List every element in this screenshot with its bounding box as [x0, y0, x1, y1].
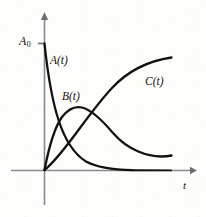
plot-canvas	[0, 0, 206, 217]
kinetics-figure: A0 A(t) B(t) C(t) t	[0, 0, 206, 217]
curve-b	[45, 107, 172, 170]
label-x-axis: t	[183, 180, 186, 191]
label-a0: A0	[19, 35, 30, 47]
label-curve-b: B(t)	[62, 91, 80, 103]
label-curve-a: A(t)	[50, 55, 68, 67]
label-a0-symbol: A	[19, 34, 26, 48]
label-a0-subscript: 0	[27, 40, 31, 49]
y-axis-arrowhead	[41, 12, 48, 20]
label-curve-c: C(t)	[145, 76, 164, 88]
x-axis-arrowhead	[190, 167, 197, 174]
